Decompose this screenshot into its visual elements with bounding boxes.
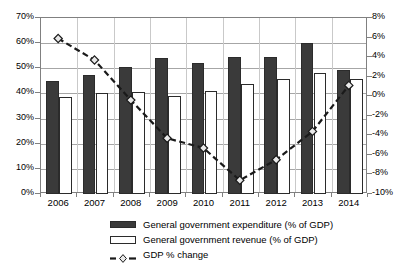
left-axis-tick-label: 50% — [0, 62, 34, 71]
bar-revenue — [168, 96, 181, 194]
bar-expenditure — [155, 58, 168, 194]
x-axis-tick-mark — [149, 193, 150, 197]
bar-revenue — [132, 92, 145, 194]
right-axis-tick-label: 4% — [372, 51, 412, 60]
right-axis-tick-mark — [367, 134, 372, 135]
right-axis-tick-label: -10% — [372, 188, 412, 197]
left-axis-tick-label: 60% — [0, 37, 34, 46]
legend-item-gdp-change: GDP % change — [110, 247, 400, 262]
right-axis-tick-label: 6% — [372, 32, 412, 41]
bar-expenditure — [83, 75, 96, 194]
bar-revenue — [96, 93, 109, 194]
x-axis-tick-label: 2009 — [149, 197, 185, 208]
chart-container: 0%10%20%30%40%50%60%70% -10%-8%-6%-4%-2%… — [0, 0, 413, 267]
x-axis-tick-mark — [76, 193, 77, 197]
bar-expenditure — [264, 57, 277, 194]
category-separator — [114, 18, 115, 192]
left-axis-tick-label: 10% — [0, 163, 34, 172]
category-separator — [77, 18, 78, 192]
right-axis-tick-label: -2% — [372, 110, 412, 119]
dashed-line-diamond-icon — [110, 250, 136, 259]
x-axis-tick-mark — [40, 193, 41, 197]
x-axis-tick-mark — [222, 193, 223, 197]
legend-label-gdp-change: GDP % change — [143, 249, 208, 260]
right-axis-tick-label: -6% — [372, 149, 412, 158]
bar-expenditure — [46, 81, 59, 194]
x-axis-tick-mark — [258, 193, 259, 197]
right-axis-tick-mark — [367, 115, 372, 116]
x-axis-tick-mark — [294, 193, 295, 197]
outlined-bar-swatch-icon — [110, 236, 136, 244]
right-axis-tick-mark — [367, 37, 372, 38]
category-separator — [295, 18, 296, 192]
x-axis-tick-label: 2012 — [258, 197, 294, 208]
right-axis-tick-mark — [367, 17, 372, 18]
legend-item-expenditure: General government expenditure (% of GDP… — [110, 217, 400, 232]
legend-label-expenditure: General government expenditure (% of GDP… — [143, 219, 333, 230]
left-axis-tick-label: 70% — [0, 12, 34, 21]
x-axis-tick-label: 2011 — [222, 197, 258, 208]
gridline — [41, 43, 366, 44]
right-axis-tick-mark — [367, 173, 372, 174]
right-axis-tick-label: 8% — [372, 12, 412, 21]
plot-area — [40, 17, 367, 193]
category-separator — [150, 18, 151, 192]
right-axis-tick-label: -4% — [372, 129, 412, 138]
right-axis-tick-mark — [367, 154, 372, 155]
x-axis-tick-label: 2008 — [113, 197, 149, 208]
bar-revenue — [241, 84, 254, 194]
bar-revenue — [59, 97, 72, 194]
x-axis-tick-mark — [367, 193, 368, 197]
bar-expenditure — [337, 70, 350, 194]
x-axis-tick-mark — [113, 193, 114, 197]
right-axis-tick-mark — [367, 76, 372, 77]
category-separator — [186, 18, 187, 192]
category-separator — [332, 18, 333, 192]
right-axis-tick-mark — [367, 95, 372, 96]
x-axis-tick-label: 2014 — [331, 197, 367, 208]
filled-bar-swatch-icon — [110, 221, 136, 228]
bar-expenditure — [192, 63, 205, 194]
bar-revenue — [350, 79, 363, 194]
x-axis-tick-label: 2006 — [40, 197, 76, 208]
bar-revenue — [205, 91, 218, 194]
x-axis-tick-label: 2013 — [294, 197, 330, 208]
bar-revenue — [314, 73, 327, 194]
bar-expenditure — [119, 67, 132, 194]
x-axis-tick-mark — [331, 193, 332, 197]
category-separator — [223, 18, 224, 192]
left-axis-tick-label: 40% — [0, 87, 34, 96]
category-separator — [259, 18, 260, 192]
right-axis-tick-label: -8% — [372, 168, 412, 177]
x-axis-tick-mark — [185, 193, 186, 197]
legend-item-revenue: General government revenue (% of GDP) — [110, 232, 400, 247]
bar-expenditure — [228, 57, 241, 194]
x-axis-tick-label: 2010 — [185, 197, 221, 208]
right-axis-tick-label: 2% — [372, 71, 412, 80]
bar-expenditure — [301, 43, 314, 194]
right-axis-tick-mark — [367, 56, 372, 57]
left-axis-tick-label: 20% — [0, 138, 34, 147]
bar-revenue — [277, 79, 290, 194]
chart-legend: General government expenditure (% of GDP… — [110, 217, 400, 262]
legend-label-revenue: General government revenue (% of GDP) — [143, 234, 318, 245]
right-axis-tick-label: 0% — [372, 90, 412, 99]
left-axis-tick-label: 30% — [0, 113, 34, 122]
left-axis-tick-label: 0% — [0, 188, 34, 197]
x-axis-tick-label: 2007 — [76, 197, 112, 208]
